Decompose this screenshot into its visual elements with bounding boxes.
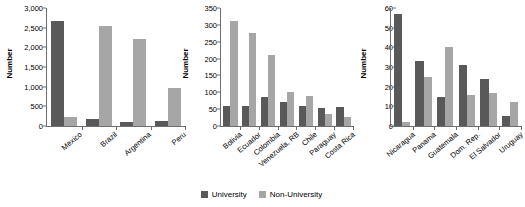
bars-2 (221, 8, 353, 126)
x-axis-labels-1: MexicoBrazilArgentinaPeru (47, 130, 185, 186)
chart-panel-3: Number 0102030405060 NicaraguaPanamaGuat… (354, 0, 523, 182)
bar-group (221, 8, 240, 126)
y-tick-label: 3,000 (24, 4, 43, 13)
chart-panel-2: Number 050100150200250300350 BoliviaEcua… (176, 0, 354, 182)
plot-3: NicaraguaPanamaGuatemalaDom. Rep.El Salv… (390, 8, 521, 127)
bar-group (434, 8, 456, 126)
plot-2: BoliviaEcuadorColombiaVenezuela, RBChile… (220, 8, 353, 127)
bar-non-university (64, 117, 77, 126)
y-axis-label-text: Number (181, 48, 190, 78)
x-tick-label: Uruguay (497, 130, 525, 155)
y-axis-ticks-1: 05001,0001,5002,0002,5003,000 (16, 8, 46, 126)
x-tick-mark (521, 126, 522, 130)
x-tick-label: Mexico (60, 130, 84, 152)
bar-group (296, 8, 315, 126)
chart-panel-1: Number 05001,0001,5002,0002,5003,000 Mex… (0, 0, 176, 182)
bar-university (502, 116, 510, 126)
bar-group (116, 8, 151, 126)
legend-swatch-icon (201, 191, 208, 198)
y-tick-label: 500 (30, 102, 43, 111)
y-tick-label: 200 (204, 54, 217, 63)
bar-group (82, 8, 117, 126)
chart-legend: UniversityNon-University (0, 186, 523, 202)
y-tick-label: 150 (204, 71, 217, 80)
legend-label: Non-University (270, 190, 322, 199)
bar-group (334, 8, 353, 126)
bar-university (318, 108, 325, 126)
bar-non-university (489, 93, 497, 126)
bar-university (223, 106, 230, 126)
y-axis-label-1: Number (2, 0, 16, 126)
x-axis-labels-2: BoliviaEcuadorColombiaVenezuela, RBChile… (221, 130, 353, 186)
bar-university (51, 21, 64, 126)
y-tick-label: 250 (204, 37, 217, 46)
bar-group (499, 8, 521, 126)
legend-label: University (212, 190, 247, 199)
bar-university (242, 106, 249, 126)
bar-non-university (325, 114, 332, 126)
bar-non-university (249, 33, 256, 126)
bar-group (259, 8, 278, 126)
legend-swatch-icon (259, 191, 266, 198)
x-tick-label: Nicaragua (384, 130, 416, 159)
bar-non-university (306, 96, 313, 126)
bar-non-university (445, 47, 453, 126)
bar-non-university (133, 39, 146, 126)
bar-non-university (467, 95, 475, 126)
bars-1 (47, 8, 185, 126)
bar-group (47, 8, 82, 126)
y-tick-label: 1,000 (24, 82, 43, 91)
bar-university (459, 65, 467, 126)
legend-item-non-university[interactable]: Non-University (259, 190, 322, 199)
y-axis-label-text: Number (5, 48, 14, 78)
bar-university (261, 97, 268, 126)
bar-university (280, 102, 287, 126)
bar-non-university (287, 92, 294, 126)
bar-non-university (268, 55, 275, 126)
bar-university (336, 107, 343, 126)
bar-university (480, 79, 488, 126)
y-tick-label: 350 (204, 4, 217, 13)
bar-group (478, 8, 500, 126)
y-tick-label: 50 (209, 105, 217, 114)
chart-panels: Number 05001,0001,5002,0002,5003,000 Mex… (0, 0, 523, 182)
x-axis-labels-3: NicaraguaPanamaGuatemalaDom. Rep.El Salv… (391, 130, 521, 186)
y-tick-label: 2,500 (24, 23, 43, 32)
bar-group (315, 8, 334, 126)
bar-non-university (230, 21, 237, 126)
bar-group (456, 8, 478, 126)
bar-university (437, 97, 445, 127)
bar-university (394, 14, 402, 126)
plot-1: MexicoBrazilArgentinaPeru (46, 8, 185, 127)
y-tick-label: 1,500 (24, 63, 43, 72)
bar-non-university (99, 26, 112, 126)
bar-group (240, 8, 259, 126)
bar-non-university (424, 77, 432, 126)
bar-group (413, 8, 435, 126)
bar-university (299, 106, 306, 126)
bar-non-university (344, 117, 351, 126)
y-tick-label: 100 (204, 88, 217, 97)
bar-group (278, 8, 297, 126)
x-tick-label: Brazil (98, 130, 118, 149)
bar-non-university (510, 102, 518, 126)
bar-university (86, 119, 99, 126)
bar-university (415, 61, 423, 126)
bar-group (391, 8, 413, 126)
bars-3 (391, 8, 521, 126)
legend-item-university[interactable]: University (201, 190, 247, 199)
y-tick-label: 300 (204, 20, 217, 29)
y-axis-ticks-2: 050100150200250300350 (190, 8, 220, 126)
y-tick-label: 2,000 (24, 43, 43, 52)
x-tick-label: Argentina (122, 130, 152, 158)
